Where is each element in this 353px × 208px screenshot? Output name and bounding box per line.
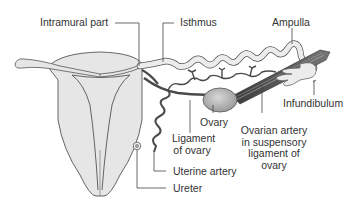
- uterine-artery: [153, 90, 170, 152]
- label-ampulla: Ampulla: [272, 17, 310, 29]
- ovary: [203, 88, 237, 112]
- label-ovarian-artery-line4: ovary: [238, 160, 310, 172]
- label-ovary: Ovary: [200, 117, 228, 129]
- label-ureter: Ureter: [173, 183, 202, 195]
- label-uterine-artery: Uterine artery: [173, 166, 237, 178]
- label-ovarian-artery-line1: Ovarian artery: [238, 125, 310, 137]
- label-ligament-of-ovary: Ligament of ovary: [172, 133, 212, 156]
- label-infundibulum: Infundibulum: [283, 98, 343, 110]
- label-ligament-of-ovary-line2: of ovary: [172, 145, 212, 157]
- label-ligament-of-ovary-line1: Ligament: [172, 133, 212, 145]
- label-isthmus: Isthmus: [180, 17, 217, 29]
- ureter: [133, 142, 141, 150]
- label-ovarian-artery-line3: ligament of: [238, 148, 310, 160]
- label-ovarian-artery: Ovarian artery in suspensory ligament of…: [238, 125, 310, 171]
- label-intramural-part: Intramural part: [40, 17, 108, 29]
